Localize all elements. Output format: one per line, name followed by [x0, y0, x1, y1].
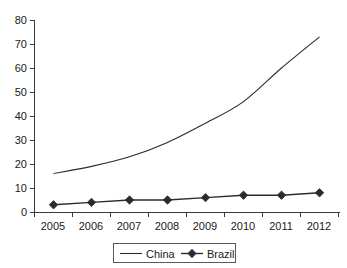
legend-label-brazil: Brazil [207, 248, 235, 260]
data-point-marker [49, 201, 57, 209]
x-tick-label: 2007 [117, 220, 141, 232]
y-tick-label: 80 [15, 14, 27, 26]
line-chart: 80 70 60 50 40 30 20 10 0 2005 2006 200 [0, 0, 347, 268]
y-tick-label: 70 [15, 38, 27, 50]
x-tick-label: 2009 [193, 220, 217, 232]
x-tick-label: 2006 [79, 220, 103, 232]
x-tick-label: 2011 [269, 220, 293, 232]
x-tick-label: 2008 [155, 220, 179, 232]
legend-label-china: China [146, 248, 176, 260]
y-tick-label: 20 [15, 158, 27, 170]
x-tick-label: 2012 [307, 220, 331, 232]
data-point-marker [125, 196, 133, 204]
data-point-marker [201, 193, 209, 201]
x-tick-label: 2010 [231, 220, 255, 232]
x-tick-label: 2005 [41, 220, 65, 232]
data-point-marker [163, 196, 171, 204]
data-point-marker [87, 198, 95, 206]
chart-legend: China Brazil [114, 244, 236, 263]
y-tick-label: 30 [15, 134, 27, 146]
chart-canvas: 80 70 60 50 40 30 20 10 0 2005 2006 200 [0, 0, 347, 268]
series-china [54, 37, 320, 174]
y-tick-label: 40 [15, 110, 27, 122]
y-tick-label: 0 [21, 206, 27, 218]
data-point-marker [239, 191, 247, 199]
y-tick-label: 60 [15, 62, 27, 74]
series-brazil [49, 189, 323, 209]
y-tick-labels: 80 70 60 50 40 30 20 10 0 [15, 14, 27, 218]
y-tick-label: 10 [15, 182, 27, 194]
series-line-china [54, 37, 320, 174]
data-point-marker [277, 191, 285, 199]
legend-swatch-brazil-diamond [188, 249, 196, 258]
y-tick-marks [30, 21, 35, 213]
y-tick-label: 50 [15, 86, 27, 98]
x-tick-marks [35, 213, 339, 218]
x-tick-labels: 2005 2006 2007 2008 2009 2010 2011 2012 [41, 220, 331, 232]
series-layer [49, 37, 323, 209]
data-point-marker [315, 189, 323, 197]
